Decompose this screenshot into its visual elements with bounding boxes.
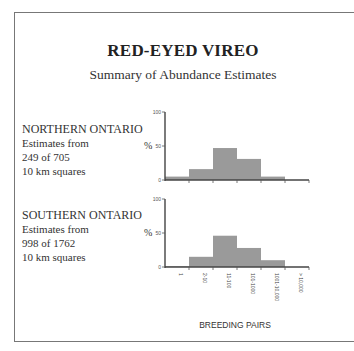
svg-text:%: % xyxy=(144,227,152,238)
svg-text:> 10,000: > 10,000 xyxy=(298,273,304,293)
histogram-bar xyxy=(189,169,213,180)
x-axis-label: BREEDING PAIRS xyxy=(160,320,310,330)
svg-text:50: 50 xyxy=(155,143,161,149)
histogram-bar xyxy=(261,260,285,267)
svg-text:101-1000: 101-1000 xyxy=(250,273,256,294)
svg-text:100: 100 xyxy=(153,196,162,202)
histogram-bar xyxy=(237,248,261,267)
svg-text:0: 0 xyxy=(158,177,161,183)
svg-text:2-10: 2-10 xyxy=(202,273,208,283)
histogram-bar xyxy=(213,148,237,180)
histogram-bar xyxy=(213,236,237,267)
svg-text:50: 50 xyxy=(155,230,161,236)
svg-text:1001-10,000: 1001-10,000 xyxy=(274,273,280,301)
histogram-bar xyxy=(189,257,213,267)
svg-text:%: % xyxy=(144,140,152,151)
svg-text:100: 100 xyxy=(153,109,162,115)
histogram-bar xyxy=(237,159,261,180)
svg-text:1: 1 xyxy=(178,273,184,276)
svg-text:11-100: 11-100 xyxy=(226,273,232,288)
svg-text:0: 0 xyxy=(158,264,161,270)
